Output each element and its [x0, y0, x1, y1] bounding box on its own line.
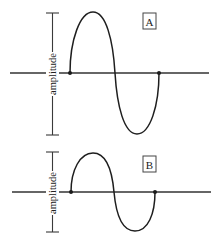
wave-amplitude-diagram: amplitude A amplitude B — [0, 0, 222, 249]
panel-b-amplitude-label: amplitude — [47, 172, 58, 214]
panel-a-label: A — [146, 16, 154, 28]
panel-a-amplitude-label: amplitude — [47, 53, 58, 95]
panel-b-label: B — [146, 159, 153, 171]
panel-b-wave-end-dot — [153, 190, 157, 194]
panel-b: amplitude B — [12, 152, 211, 232]
panel-a: amplitude A — [10, 12, 209, 135]
panel-a-wave-end-dot — [157, 71, 161, 75]
panel-b-wave-start-dot — [69, 190, 73, 194]
panel-a-wave-start-dot — [68, 71, 72, 75]
